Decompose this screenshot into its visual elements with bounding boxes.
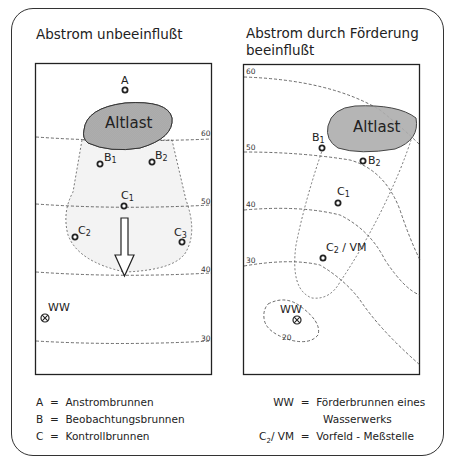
legend-item-B: B = Beobachtungsbrunnen — [36, 411, 185, 428]
well-A-label: A — [121, 75, 129, 87]
contour-label-60: 60 — [201, 130, 211, 138]
well-B2-label: B2 — [155, 150, 168, 162]
well-WW-right-label: WW — [280, 304, 302, 316]
flow-direction-arrow — [115, 218, 134, 276]
right-plume — [295, 137, 412, 298]
left-ww-icon — [41, 314, 49, 322]
legend-item-C: C = Kontrollbrunnen — [36, 428, 185, 445]
well-C2VM-label: C2 / VM — [326, 242, 367, 254]
well-C1-right-icon — [335, 200, 340, 205]
legend-left: A = Anstrombrunnen B = Beobachtungsbrunn… — [36, 394, 185, 445]
well-A-icon — [122, 87, 127, 92]
right-altlast-label: Altlast — [353, 119, 400, 135]
well-C2VM-icon — [320, 255, 325, 260]
contour-label-50: 50 — [201, 198, 211, 206]
well-C2-icon — [72, 234, 77, 239]
right-ww-icon — [293, 316, 301, 324]
right-contour-label-30: 30 — [246, 257, 256, 265]
well-B1-right-icon — [319, 145, 324, 150]
well-C1-right-label: C1 — [337, 186, 350, 198]
contour-label-30: 30 — [201, 335, 211, 343]
well-WW-label: WW — [48, 302, 70, 314]
well-C1-label: C1 — [121, 190, 134, 202]
well-B1-label: B1 — [104, 152, 117, 164]
well-C3-icon — [179, 239, 184, 244]
left-altlast-label: Altlast — [105, 115, 152, 131]
legend-item-C2VM: C2/ VM = Vorfeld - Meßstelle — [253, 428, 425, 450]
well-B2-right-icon — [360, 158, 365, 163]
well-B2-right-label: B2 — [368, 155, 381, 167]
right-contour-label-60: 60 — [246, 68, 256, 76]
well-B1-right-label: B1 — [312, 132, 325, 144]
right-contour-label-50: 50 — [246, 144, 256, 152]
right-contour-label-20: 20 — [282, 334, 292, 342]
well-C2-label: C2 — [78, 225, 91, 237]
legend-item-A: A = Anstrombrunnen — [36, 394, 185, 411]
well-C1-icon — [121, 203, 126, 208]
well-B2-icon — [149, 159, 154, 164]
legend-item-WW: WW = Förderbrunnen eines — [253, 394, 425, 411]
well-C3-label: C3 — [174, 227, 187, 239]
legend-item-WW-cont: Wasserwerks — [253, 411, 425, 428]
right-contour-label-40: 40 — [246, 201, 256, 209]
well-B1-icon — [97, 161, 102, 166]
contour-label-40: 40 — [201, 266, 211, 274]
legend-right: WW = Förderbrunnen eines Wasserwerks C2/… — [253, 394, 425, 450]
